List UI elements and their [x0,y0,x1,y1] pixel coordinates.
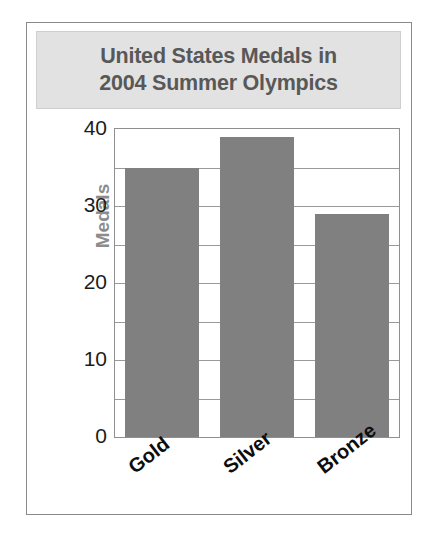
y-tick-label: 0 [63,425,107,446]
y-axis-tick-labels: 010203040 [61,128,107,438]
bar-silver [220,137,294,437]
plot-area [114,128,400,438]
y-tick-label: 30 [63,194,107,215]
bar-gold [125,168,199,438]
bar-bronze [315,214,389,437]
page-title: United States Medals in 2004 Summer Olym… [99,43,338,97]
y-tick-label: 40 [63,117,107,138]
y-tick-label: 20 [63,271,107,292]
x-tick-label-gold: Gold [124,432,174,478]
chart-title-banner: United States Medals in 2004 Summer Olym… [36,31,401,109]
chart-frame: United States Medals in 2004 Summer Olym… [26,22,412,515]
y-tick-label: 10 [63,348,107,369]
